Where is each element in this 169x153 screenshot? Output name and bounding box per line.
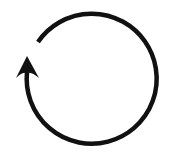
refresh-arrow-icon — [0, 0, 169, 153]
circular-arc — [27, 14, 157, 144]
refresh-arrow-icon-container — [0, 0, 169, 153]
